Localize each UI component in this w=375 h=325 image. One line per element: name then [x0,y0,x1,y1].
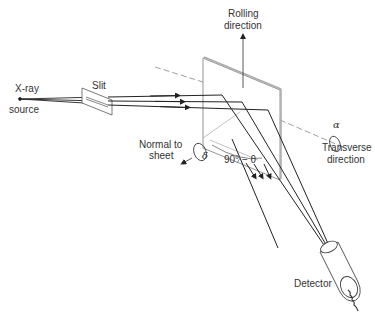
detector-label: Detector [294,278,332,289]
xray-source-label-line2: source [9,104,39,115]
xray-source-label-line1: X-ray [15,83,39,94]
transverse-direction-label-line1: Transverse [322,142,372,153]
slit-label: Slit [92,80,106,91]
detector [319,239,361,311]
slit [82,88,112,115]
normal-to-sheet-label-line2: sheet [149,150,173,161]
delta-symbol: δ [202,150,208,161]
normal-to-sheet-label-line1: Normal to [139,139,182,150]
rolling-direction-label-line2: direction [224,20,262,31]
diagram-canvas [0,0,375,325]
diffraction-diagram: X-ray source Slit Rolling direction Norm… [0,0,375,325]
transverse-direction-label-line2: direction [327,154,365,165]
alpha-symbol: α [333,119,340,130]
angle-label: 90° − θ [224,154,256,165]
rolling-direction-label-line1: Rolling [228,8,259,19]
